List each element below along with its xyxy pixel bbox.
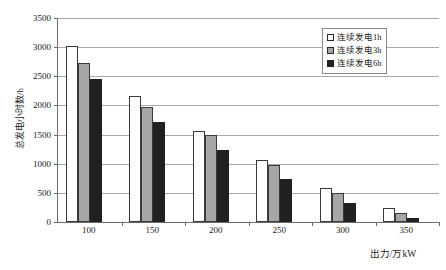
- y-axis-tick-label: 1000: [33, 159, 51, 168]
- x-axis-tick-mark: [439, 222, 440, 226]
- bar-group: [249, 18, 313, 222]
- y-axis-tick-label: 3500: [33, 14, 51, 23]
- bar-chart: 总发电小时数/h 0500100015002000250030003500 10…: [0, 0, 446, 270]
- x-axis-tick-label: 100: [82, 225, 96, 236]
- y-axis-tick-label: 0: [47, 218, 52, 227]
- legend-swatch-icon: [327, 34, 334, 41]
- y-axis-tick-label: 1500: [33, 130, 51, 139]
- bar: [205, 135, 217, 222]
- legend-item[interactable]: 连续发电6h: [327, 57, 382, 70]
- legend-swatch-icon: [327, 47, 334, 54]
- x-axis-tick-label: 150: [146, 225, 160, 236]
- bar: [66, 46, 78, 222]
- bar-group: [185, 18, 249, 222]
- x-axis-tick-label: 250: [273, 225, 287, 236]
- legend-item-label: 连续发电3h: [337, 46, 382, 55]
- bar-group: [58, 18, 122, 222]
- bar-group: [122, 18, 186, 222]
- x-axis-tick-label: 350: [400, 225, 414, 236]
- bar: [332, 193, 344, 222]
- bar: [320, 188, 332, 222]
- legend-item-label: 连续发电6h: [337, 59, 382, 68]
- bar: [256, 160, 268, 222]
- bar: [395, 213, 407, 222]
- y-axis-tick-mark: [54, 222, 58, 223]
- x-axis-tick-labels: 100150200250300350: [57, 225, 438, 239]
- x-axis-tick-label: 300: [336, 225, 350, 236]
- bar: [407, 218, 419, 222]
- legend-swatch-icon: [327, 60, 334, 67]
- bar: [280, 179, 292, 222]
- y-axis-tick-label: 2500: [33, 72, 51, 81]
- x-axis-tick-label: 200: [209, 225, 223, 236]
- bar: [193, 131, 205, 223]
- bar: [90, 79, 102, 222]
- bar: [153, 122, 165, 222]
- bar: [141, 107, 153, 222]
- legend-item[interactable]: 连续发电3h: [327, 44, 382, 57]
- bar: [129, 96, 141, 222]
- bar: [217, 150, 229, 222]
- legend-item-label: 连续发电1h: [337, 33, 382, 42]
- y-axis-tick-label: 500: [38, 188, 52, 197]
- y-axis-tick-label: 2000: [33, 101, 51, 110]
- x-axis-title: 出力/万kW: [340, 246, 446, 260]
- y-axis-tick-label: 3000: [33, 43, 51, 52]
- chart-legend: 连续发电1h连续发电3h连续发电6h: [322, 28, 387, 74]
- legend-item[interactable]: 连续发电1h: [327, 31, 382, 44]
- bar: [383, 208, 395, 222]
- bar: [78, 63, 90, 222]
- bar: [268, 165, 280, 222]
- y-axis-tick-labels: 0500100015002000250030003500: [16, 18, 54, 222]
- bar: [344, 203, 356, 222]
